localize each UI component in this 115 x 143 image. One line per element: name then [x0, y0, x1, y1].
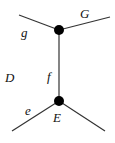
label-D: D: [4, 70, 15, 85]
vertex-bottom: [54, 96, 64, 106]
label-G: G: [80, 6, 90, 21]
vertex-top: [54, 25, 64, 35]
feynman-diagram: g G D f e E: [0, 0, 115, 143]
edge-right-bottom: [59, 101, 105, 131]
label-f: f: [47, 69, 53, 84]
label-e: e: [25, 103, 31, 118]
edge-e: [12, 101, 59, 131]
label-g: g: [21, 25, 28, 40]
label-E: E: [52, 110, 61, 125]
